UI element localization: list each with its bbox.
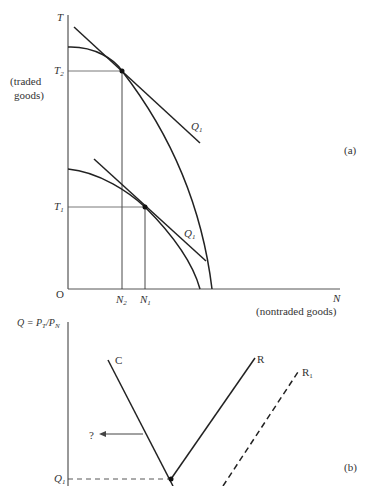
n2-label: N2 [116,294,127,307]
inner-ppf-curve [68,169,200,289]
outer-ppf-curve [68,47,212,289]
c-label: C [115,355,122,366]
t-axis-label-line1: (traded [10,76,41,87]
t-axis-symbol: T [57,12,63,23]
r-curve [171,358,255,479]
n1-label: N1 [140,294,151,307]
r1-label: R1 [302,367,313,380]
arrow-head-icon [99,431,106,437]
origin-label: O [56,289,64,300]
t2-label: T2 [54,65,64,78]
tangency-point-lower [143,205,148,210]
tangency-point-upper [120,69,125,74]
n-axis-label: (nontraded goods) [256,306,336,317]
panel-a-tag: (a) [344,145,356,156]
equilibrium-point [169,477,174,482]
n-axis-symbol: N [333,293,340,304]
upper-tangent-q1 [74,27,200,143]
t-axis-label-line2: goods) [14,90,44,101]
upper-q1-label: Q1 [191,121,202,134]
lower-q1-label: Q1 [184,228,195,241]
c-curve [108,360,173,486]
q1-label: Q1 [54,473,65,486]
arrow-question-label: ? [89,430,94,441]
panel-b-tag: (b) [344,462,357,473]
q-axis-label: Q = PT/PN [17,318,60,330]
t1-label: T1 [54,201,64,214]
r-label: R [257,354,264,365]
lower-tangent-q1 [94,159,206,261]
